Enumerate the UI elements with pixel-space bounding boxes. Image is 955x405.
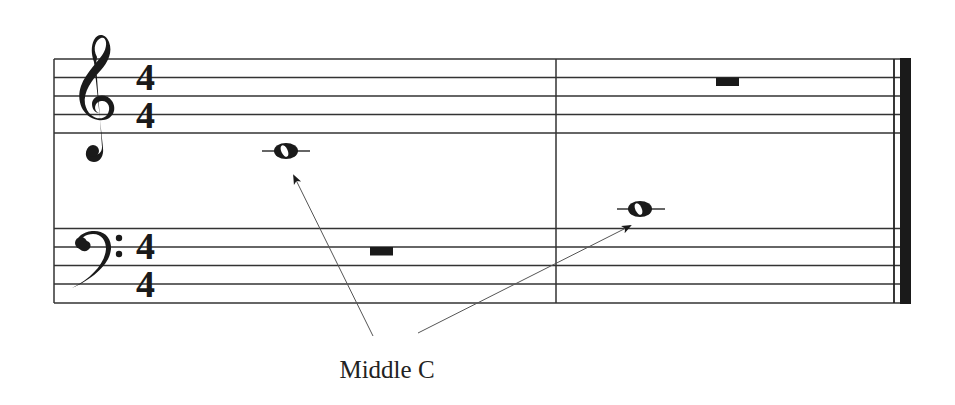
arrow-to-bass-note [418,226,630,333]
bass-staff [54,229,900,304]
treble-staff [54,59,900,133]
time-signature-bottom: 4 [136,263,155,305]
grand-staff-diagram: 4 4 4 4 Middle C [0,0,955,405]
whole-rest-treble [716,78,739,87]
arrow-to-treble-note [294,176,373,336]
treble-time-signature: 4 4 [136,56,155,136]
whole-rest-bass [370,247,393,256]
time-signature-top: 4 [136,56,155,98]
time-signature-bottom: 4 [136,94,155,136]
final-barline [894,58,911,304]
whole-note-middle-c-bass [617,201,665,217]
treble-clef-icon [79,35,114,162]
time-signature-top: 4 [136,225,155,267]
middle-c-label: Middle C [339,356,434,383]
bass-clef-icon [72,231,122,288]
bass-time-signature: 4 4 [136,225,155,305]
whole-note-middle-c-treble [262,143,310,159]
